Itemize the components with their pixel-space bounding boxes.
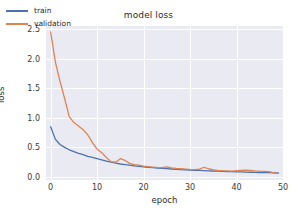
x-axis-label: epoch [46, 195, 283, 205]
figure-canvas: model loss 0.00.51.01.52.02.5 0102030405… [0, 0, 297, 218]
legend-item-validation[interactable]: validation [6, 17, 92, 30]
chart-legend: trainvalidation [6, 4, 92, 30]
x-tick-label: 10 [92, 183, 102, 192]
y-tick-label: 0.0 [27, 173, 40, 182]
y-axis-label: loss [0, 87, 6, 103]
legend-label: train [34, 6, 51, 15]
y-axis-ticks: 0.00.51.01.52.02.5 [0, 26, 46, 180]
series-line-validation [51, 32, 279, 173]
x-tick-label: 40 [231, 183, 241, 192]
x-tick-label: 20 [138, 183, 148, 192]
x-tick-label: 50 [278, 183, 288, 192]
legend-item-train[interactable]: train [6, 4, 92, 17]
y-tick-label: 1.5 [27, 84, 40, 93]
series-line-train [51, 127, 279, 173]
x-tick-label: 30 [185, 183, 195, 192]
legend-swatch-validation [6, 23, 28, 25]
y-tick-label: 2.0 [27, 54, 40, 63]
legend-swatch-train [6, 10, 28, 12]
plot-area [46, 26, 283, 180]
y-tick-label: 1.0 [27, 113, 40, 122]
y-tick-label: 0.5 [27, 143, 40, 152]
x-tick-label: 0 [48, 183, 53, 192]
series-container [46, 26, 283, 180]
legend-label: validation [34, 19, 71, 28]
